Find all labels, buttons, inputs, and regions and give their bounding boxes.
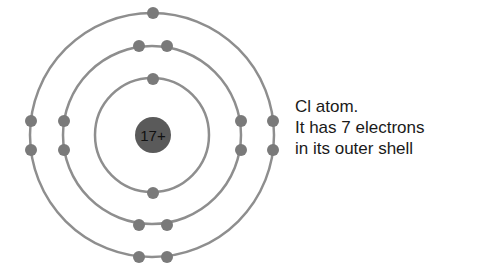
- electron-inner-bottom: [147, 187, 159, 199]
- electron-middle: [161, 219, 173, 231]
- nucleus-charge-label: 17+: [140, 127, 166, 144]
- electron-outer: [147, 7, 159, 19]
- caption: Cl atom. It has 7 electrons in its outer…: [295, 96, 424, 159]
- electron-outer: [161, 251, 173, 263]
- electron-outer: [25, 115, 37, 127]
- caption-line-2: It has 7 electrons: [295, 117, 424, 138]
- electron-middle: [235, 144, 247, 156]
- electron-outer: [133, 251, 145, 263]
- electron-middle: [58, 144, 70, 156]
- electron-outer: [267, 144, 279, 156]
- electron-middle: [161, 40, 173, 52]
- nucleus: 17+: [135, 117, 171, 153]
- electron-inner-top: [147, 73, 159, 85]
- electron-middle: [58, 115, 70, 127]
- electron-outer: [267, 115, 279, 127]
- caption-line-3: in its outer shell: [295, 138, 424, 159]
- electron-middle: [133, 219, 145, 231]
- electron-middle: [133, 40, 145, 52]
- electron-middle: [235, 115, 247, 127]
- electron-outer: [25, 144, 37, 156]
- caption-line-1: Cl atom.: [295, 96, 424, 117]
